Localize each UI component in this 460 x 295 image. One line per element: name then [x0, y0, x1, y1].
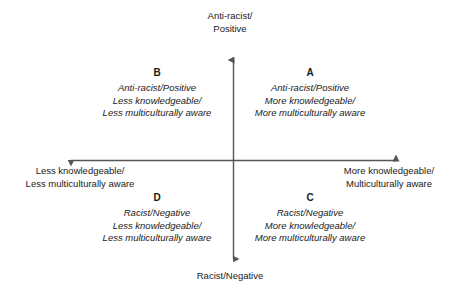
quadrant-d-body: Racist/Negative Less knowledgeable/ Less… — [82, 207, 232, 245]
quadrant-c: C Racist/Negative More knowledgeable/ Mo… — [235, 191, 385, 245]
axis-lines — [0, 0, 460, 295]
quadrant-b-letter: B — [82, 66, 232, 79]
axis-label-left-line2: Less multiculturally aware — [14, 178, 146, 191]
axis-label-top: Anti-racist/ Positive — [0, 10, 460, 35]
quadrant-b-body: Anti-racist/Positive Less knowledgeable/… — [82, 82, 232, 120]
axis-label-top-line2: Positive — [0, 23, 460, 36]
axis-label-bottom: Racist/Negative — [0, 270, 460, 283]
quadrant-c-line3: More multiculturally aware — [235, 232, 385, 245]
quadrant-b: B Anti-racist/Positive Less knowledgeabl… — [82, 66, 232, 120]
axis-label-right-line2: Multiculturally aware — [322, 178, 456, 191]
axis-label-right-line1: More knowledgeable/ — [322, 165, 456, 178]
axis-label-left-line1: Less knowledgeable/ — [14, 165, 146, 178]
quadrant-d-line2: Less knowledgeable/ — [82, 220, 232, 233]
quadrant-c-line2: More knowledgeable/ — [235, 220, 385, 233]
quadrant-b-line3: Less multiculturally aware — [82, 107, 232, 120]
quadrant-diagram: Anti-racist/ Positive Racist/Negative Le… — [0, 0, 460, 295]
quadrant-d-letter: D — [82, 191, 232, 204]
quadrant-d-line1: Racist/Negative — [82, 207, 232, 220]
axis-label-top-line1: Anti-racist/ — [0, 10, 460, 23]
quadrant-a-line3: More multiculturally aware — [235, 107, 385, 120]
quadrant-a: A Anti-racist/Positive More knowledgeabl… — [235, 66, 385, 120]
quadrant-a-body: Anti-racist/Positive More knowledgeable/… — [235, 82, 385, 120]
quadrant-a-line1: Anti-racist/Positive — [235, 82, 385, 95]
quadrant-d: D Racist/Negative Less knowledgeable/ Le… — [82, 191, 232, 245]
quadrant-c-line1: Racist/Negative — [235, 207, 385, 220]
quadrant-a-letter: A — [235, 66, 385, 79]
axis-label-right: More knowledgeable/ Multiculturally awar… — [322, 165, 456, 190]
quadrant-a-line2: More knowledgeable/ — [235, 95, 385, 108]
quadrant-b-line1: Anti-racist/Positive — [82, 82, 232, 95]
quadrant-d-line3: Less multiculturally aware — [82, 232, 232, 245]
quadrant-c-letter: C — [235, 191, 385, 204]
axis-label-bottom-line1: Racist/Negative — [0, 270, 460, 283]
quadrant-b-line2: Less knowledgeable/ — [82, 95, 232, 108]
axis-label-left: Less knowledgeable/ Less multiculturally… — [14, 165, 146, 190]
quadrant-c-body: Racist/Negative More knowledgeable/ More… — [235, 207, 385, 245]
